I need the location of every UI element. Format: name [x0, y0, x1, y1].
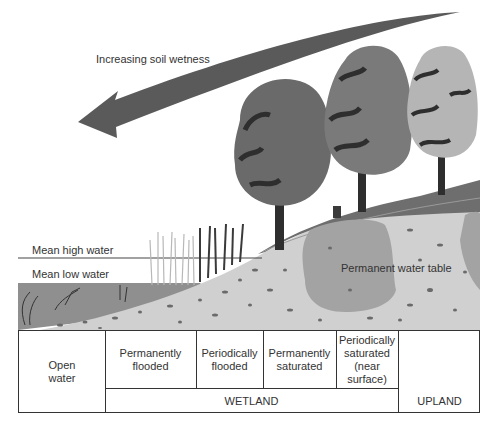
zone-classification-table: Openwater Permanentlyflooded Periodicall…	[18, 330, 480, 413]
mean-low-water-label: Mean low water	[32, 268, 109, 280]
zone-permanently-saturated: Permanentlysaturated	[263, 331, 336, 388]
arrow-label: Increasing soil wetness	[96, 53, 210, 65]
tree-middle	[324, 46, 412, 212]
zone-periodically-flooded: Periodicallyflooded	[196, 331, 263, 388]
tree-left	[234, 79, 331, 250]
tree-right	[407, 46, 478, 195]
zone-permanently-flooded: Permanentlyflooded	[105, 331, 196, 388]
zone-open-water: Openwater	[19, 331, 105, 413]
mean-high-water-label: Mean high water	[32, 244, 113, 256]
zone-periodically-saturated: Periodicallysaturated(nearsurface)	[336, 331, 398, 388]
tree-stump	[333, 206, 341, 218]
water-table-label: Permanent water table	[341, 262, 452, 274]
wetland-cross-section-illustration	[0, 0, 492, 332]
category-upland: UPLAND	[399, 389, 480, 413]
category-wetland: WETLAND	[105, 389, 398, 413]
